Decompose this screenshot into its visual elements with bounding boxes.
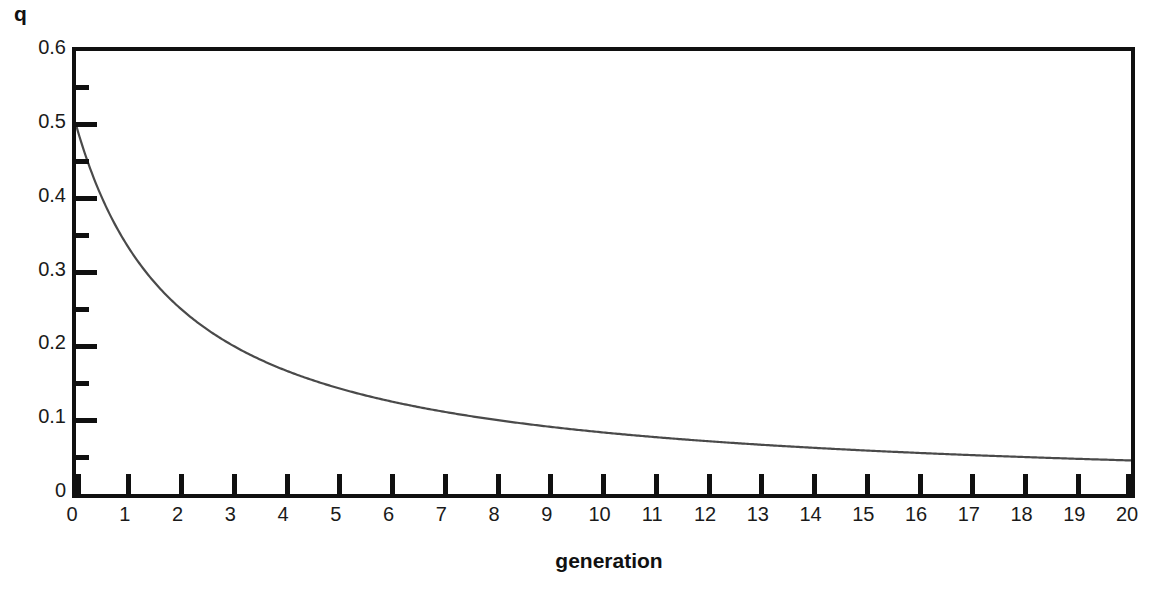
x-tick-label: 13 [728, 503, 788, 526]
figure-caption [16, 588, 1116, 603]
x-tick-mark [1126, 474, 1131, 494]
x-tick-label: 17 [939, 503, 999, 526]
x-tick-label: 18 [992, 503, 1052, 526]
x-tick-mark [812, 474, 817, 494]
y-tick-mark [76, 85, 89, 90]
x-tick-mark [970, 474, 975, 494]
x-tick-mark [601, 474, 606, 494]
x-tick-mark [1076, 474, 1081, 494]
y-axis-title: q [14, 2, 27, 26]
y-tick-label: 0 [2, 479, 66, 502]
x-tick-mark [1023, 474, 1028, 494]
x-tick-label: 10 [570, 503, 630, 526]
x-tick-label: 15 [833, 503, 893, 526]
y-axis-tick-labels: 00.10.20.30.40.50.6 [0, 47, 66, 498]
y-tick-label: 0.2 [2, 331, 66, 354]
y-tick-label: 0.4 [2, 183, 66, 206]
y-tick-mark [76, 344, 97, 349]
y-tick-label: 0.5 [2, 109, 66, 132]
x-tick-label: 4 [253, 503, 313, 526]
x-tick-label: 11 [622, 503, 682, 526]
y-tick-mark [76, 122, 97, 127]
y-tick-mark [76, 418, 97, 423]
x-tick-mark [865, 474, 870, 494]
chart-figure: q 00.10.20.30.40.50.6 012345678910111213… [0, 0, 1160, 603]
x-tick-label: 0 [42, 503, 102, 526]
x-tick-mark [390, 474, 395, 494]
x-tick-label: 7 [411, 503, 471, 526]
plot-area [76, 51, 1131, 494]
y-tick-label: 0.6 [2, 36, 66, 59]
x-tick-label: 6 [359, 503, 419, 526]
x-tick-mark [496, 474, 501, 494]
y-tick-mark [76, 270, 97, 275]
x-tick-label: 5 [306, 503, 366, 526]
x-tick-mark [707, 474, 712, 494]
x-tick-mark [126, 474, 131, 494]
x-axis-title-text: generation [555, 549, 662, 573]
x-tick-mark [76, 474, 81, 494]
x-tick-label: 3 [200, 503, 260, 526]
x-tick-label: 16 [886, 503, 946, 526]
x-tick-mark [443, 474, 448, 494]
x-tick-mark [918, 474, 923, 494]
x-axis-tick-labels: 01234567891011121314151617181920 [72, 503, 1135, 531]
plot-frame [72, 47, 1135, 498]
y-tick-label: 0.3 [2, 257, 66, 280]
x-tick-label: 14 [781, 503, 841, 526]
x-tick-label: 8 [464, 503, 524, 526]
y-tick-mark [76, 233, 89, 238]
x-tick-label: 9 [517, 503, 577, 526]
x-tick-mark [285, 474, 290, 494]
x-tick-label: 2 [148, 503, 208, 526]
x-tick-mark [548, 474, 553, 494]
x-tick-label: 20 [1097, 503, 1157, 526]
y-tick-mark [76, 196, 97, 201]
x-tick-mark [654, 474, 659, 494]
x-tick-mark [179, 474, 184, 494]
y-tick-mark [76, 455, 89, 460]
y-tick-mark [76, 159, 89, 164]
x-tick-label: 19 [1044, 503, 1104, 526]
decay-curve [76, 51, 1131, 494]
x-tick-mark [337, 474, 342, 494]
x-tick-mark [232, 474, 237, 494]
y-tick-label: 0.1 [2, 405, 66, 428]
x-tick-mark [759, 474, 764, 494]
x-axis-title: generation [0, 549, 1160, 573]
y-tick-mark [76, 381, 89, 386]
x-tick-label: 12 [675, 503, 735, 526]
y-tick-mark [76, 307, 89, 312]
x-tick-label: 1 [95, 503, 155, 526]
